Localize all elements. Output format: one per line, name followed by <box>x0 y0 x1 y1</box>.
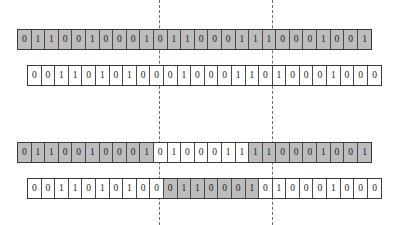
cell: 1 <box>222 143 236 162</box>
cell: 0 <box>259 179 273 198</box>
cell: 0 <box>300 179 314 198</box>
cell: 1 <box>45 143 59 162</box>
cell: 0 <box>205 66 219 85</box>
cell: 0 <box>331 30 345 49</box>
cell: 0 <box>303 30 317 49</box>
cell: 0 <box>59 143 73 162</box>
cell: 1 <box>96 66 110 85</box>
cell: 0 <box>368 66 382 85</box>
cell: 0 <box>18 30 32 49</box>
cell: 0 <box>137 179 151 198</box>
cell: 0 <box>191 66 205 85</box>
cell: 0 <box>113 143 127 162</box>
cell: 0 <box>100 30 114 49</box>
cell: 1 <box>358 30 372 49</box>
cell: 1 <box>327 66 341 85</box>
cell: 1 <box>168 143 182 162</box>
cell: 0 <box>290 30 304 49</box>
cell: 1 <box>273 179 287 198</box>
cell: 1 <box>123 179 137 198</box>
cell: 0 <box>59 30 73 49</box>
cell: 0 <box>28 179 42 198</box>
cell: 1 <box>191 179 205 198</box>
cell: 1 <box>317 30 331 49</box>
cell: 0 <box>259 66 273 85</box>
cell: 1 <box>317 143 331 162</box>
cell: 0 <box>208 143 222 162</box>
cell: 0 <box>195 30 209 49</box>
cell: 1 <box>236 30 250 49</box>
cell: 0 <box>18 143 32 162</box>
cell: 0 <box>42 66 56 85</box>
cell: 0 <box>164 179 178 198</box>
cell: 0 <box>232 179 246 198</box>
cell: 0 <box>208 30 222 49</box>
cell: 1 <box>236 143 250 162</box>
cell: 0 <box>181 143 195 162</box>
cell: 1 <box>140 143 154 162</box>
cell: 1 <box>178 66 192 85</box>
cell: 0 <box>150 179 164 198</box>
cell: 0 <box>331 143 345 162</box>
cell: 0 <box>113 30 127 49</box>
cell: 0 <box>313 179 327 198</box>
cell: 0 <box>222 30 236 49</box>
cell: 1 <box>232 66 246 85</box>
cell: 1 <box>249 143 263 162</box>
cell: 1 <box>55 179 69 198</box>
cell: 1 <box>168 30 182 49</box>
cell: 1 <box>181 30 195 49</box>
cell: 0 <box>303 143 317 162</box>
cell: 0 <box>127 30 141 49</box>
cell: 1 <box>246 179 260 198</box>
cell: 0 <box>195 143 209 162</box>
cell: 1 <box>32 30 46 49</box>
cell: 0 <box>368 179 382 198</box>
cell: 0 <box>164 66 178 85</box>
cell: 1 <box>358 143 372 162</box>
row-2: 00110101000100011010001000 <box>27 65 382 86</box>
cell: 1 <box>246 66 260 85</box>
cell: 1 <box>86 143 100 162</box>
cell: 0 <box>205 179 219 198</box>
cell: 0 <box>42 179 56 198</box>
cell: 0 <box>344 143 358 162</box>
cell: 1 <box>263 143 277 162</box>
cell: 0 <box>110 66 124 85</box>
cell: 0 <box>100 143 114 162</box>
cell: 0 <box>341 179 355 198</box>
cell: 1 <box>140 30 154 49</box>
cell: 0 <box>82 179 96 198</box>
cell: 1 <box>55 66 69 85</box>
cell: 1 <box>123 66 137 85</box>
cell: 0 <box>290 143 304 162</box>
cell: 0 <box>218 66 232 85</box>
cell: 0 <box>154 143 168 162</box>
diagram-canvas: 0110010001011000111000100100110101000100… <box>0 0 397 225</box>
cell: 0 <box>218 179 232 198</box>
cell: 1 <box>69 66 83 85</box>
cell: 1 <box>178 179 192 198</box>
cell: 1 <box>86 30 100 49</box>
cell: 1 <box>263 30 277 49</box>
cell: 1 <box>273 66 287 85</box>
cell: 1 <box>96 179 110 198</box>
cell: 0 <box>110 179 124 198</box>
row-1: 01100100010110001110001001 <box>17 29 372 50</box>
cell: 1 <box>249 30 263 49</box>
row-3: 01100100010100011110001001 <box>17 142 372 163</box>
cell: 0 <box>137 66 151 85</box>
cell: 1 <box>45 30 59 49</box>
cell: 0 <box>276 30 290 49</box>
cell: 0 <box>72 30 86 49</box>
cell: 0 <box>150 66 164 85</box>
cell: 0 <box>341 66 355 85</box>
cell: 0 <box>28 66 42 85</box>
cell: 0 <box>154 30 168 49</box>
cell: 0 <box>354 66 368 85</box>
cell: 0 <box>300 66 314 85</box>
cell: 0 <box>72 143 86 162</box>
cell: 0 <box>354 179 368 198</box>
cell: 1 <box>327 179 341 198</box>
cell: 0 <box>127 143 141 162</box>
